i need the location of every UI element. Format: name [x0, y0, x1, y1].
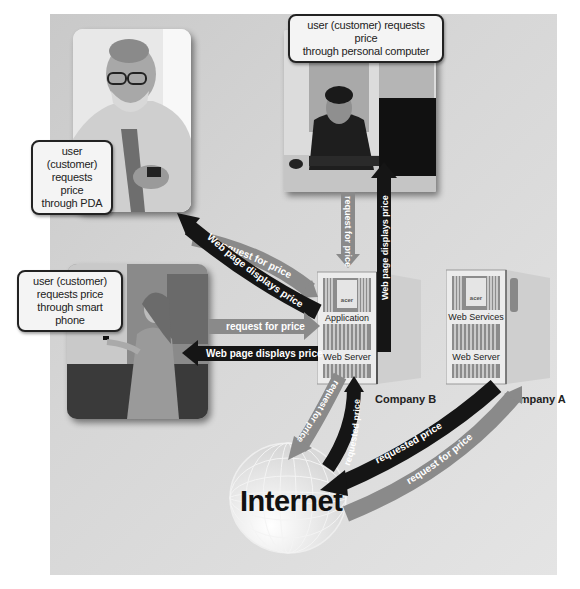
- svg-text:request for price: request for price: [343, 196, 353, 267]
- pc-response-arrow: Web page displays price: [371, 162, 397, 352]
- internet-to-a-request-arrow: request for price: [346, 386, 522, 514]
- svg-text:Web page displays price: Web page displays price: [206, 348, 323, 359]
- pda-response-arrow: Web page displays price: [177, 213, 318, 312]
- svg-text:request for price: request for price: [226, 321, 305, 332]
- data-flow-arrows: request for price Web page displays pric…: [0, 0, 580, 589]
- phone-request-arrow: request for price: [208, 312, 320, 340]
- svg-text:request for price: request for price: [295, 379, 341, 445]
- pc-request-arrow: request for price: [336, 192, 360, 268]
- phone-response-arrow: Web page displays price: [182, 340, 323, 366]
- svg-text:Web page displays price: Web page displays price: [380, 195, 390, 300]
